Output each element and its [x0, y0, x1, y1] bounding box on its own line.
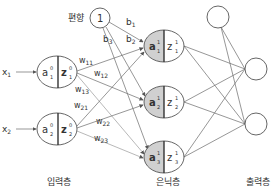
svg-text:a: a — [149, 41, 156, 52]
svg-text:1: 1 — [175, 39, 178, 45]
svg-text:a: a — [149, 97, 156, 108]
svg-text:0: 0 — [69, 65, 72, 71]
x-input-arrows — [16, 72, 36, 129]
svg-text:w12: w12 — [94, 69, 108, 79]
output-layer-label: 출력층 — [246, 176, 270, 187]
svg-text:1: 1 — [157, 150, 160, 156]
output-node-2 — [245, 113, 267, 135]
svg-text:2: 2 — [50, 131, 53, 137]
svg-text:w11: w11 — [79, 56, 93, 66]
svg-text:a: a — [42, 124, 48, 135]
svg-text:3: 3 — [175, 159, 178, 165]
svg-text:w21: w21 — [74, 101, 88, 111]
svg-text:1: 1 — [157, 39, 160, 45]
svg-text:a: a — [42, 67, 48, 78]
svg-text:b1: b1 — [126, 17, 136, 28]
output-node-1 — [245, 58, 267, 80]
svg-text:w22: w22 — [96, 117, 110, 127]
x2-label: x2 — [2, 124, 11, 135]
svg-text:2: 2 — [69, 131, 72, 137]
svg-text:3: 3 — [157, 159, 160, 165]
svg-text:1: 1 — [157, 48, 160, 54]
input-node-1: a 0 1 z 0 1 — [37, 56, 77, 88]
svg-text:z: z — [167, 152, 172, 163]
hidden-node-1: a 1 1 z 1 1 — [144, 30, 184, 62]
svg-text:w23: w23 — [94, 134, 108, 144]
svg-text:2: 2 — [157, 104, 160, 110]
svg-text:0: 0 — [69, 122, 72, 128]
svg-text:z: z — [61, 124, 67, 135]
neural-network-diagram: 편향 1 b1 b2 b3 x1 x2 a 0 1 z 0 1 a 0 2 z … — [0, 0, 278, 194]
svg-text:b2: b2 — [126, 34, 136, 45]
svg-text:z: z — [167, 41, 172, 52]
weight-labels: w11 w12 w13 w21 w22 w23 — [74, 56, 110, 144]
svg-text:0: 0 — [50, 65, 53, 71]
svg-text:1: 1 — [50, 74, 53, 80]
svg-text:1: 1 — [157, 95, 160, 101]
svg-text:1: 1 — [175, 95, 178, 101]
input-node-2: a 0 2 z 0 2 — [37, 113, 77, 145]
svg-text:2: 2 — [175, 104, 178, 110]
svg-text:z: z — [61, 67, 67, 78]
svg-text:z: z — [167, 97, 172, 108]
input-layer-label: 입력층 — [47, 176, 71, 187]
x1-label: x1 — [2, 67, 11, 78]
output-bias-node — [207, 6, 229, 28]
bias-node: 편향 1 — [68, 8, 110, 28]
hidden-node-2: a 1 2 z 1 2 — [144, 86, 184, 118]
hidden-output-edges — [184, 27, 245, 157]
svg-text:a: a — [149, 152, 156, 163]
bias-label: 편향 — [68, 12, 84, 23]
svg-text:1: 1 — [69, 74, 72, 80]
svg-text:0: 0 — [50, 122, 53, 128]
bias-value: 1 — [97, 13, 103, 24]
svg-text:1: 1 — [175, 48, 178, 54]
hidden-layer-label: 은닉층 — [156, 177, 180, 187]
hidden-node-3: a 1 3 z 1 3 — [144, 141, 184, 173]
svg-text:1: 1 — [175, 150, 178, 156]
